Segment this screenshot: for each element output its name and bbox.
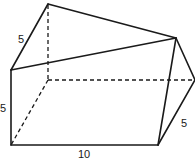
edge-right-top (176, 38, 195, 80)
edge-top-back (48, 4, 176, 38)
edge-top-front (11, 38, 176, 70)
label-front-height: 5 (0, 102, 6, 114)
label-right-slant: 5 (181, 117, 187, 129)
label-bottom-length: 10 (78, 148, 90, 159)
label-slant-top-left: 5 (18, 33, 24, 45)
prism-diagram: 5 5 10 5 (0, 0, 195, 159)
hidden-diagonal-edge (11, 80, 48, 145)
edge-top-left-slant (11, 4, 48, 70)
